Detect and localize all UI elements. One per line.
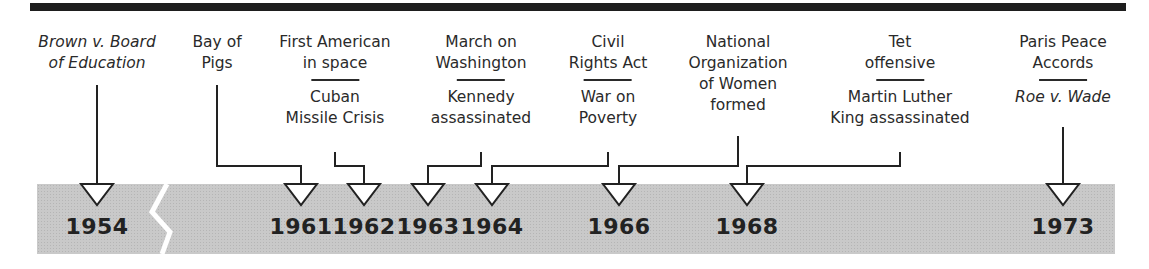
event-label-line: First American [279, 32, 390, 53]
event-bay-of-pigs: Bay of Pigs [192, 32, 241, 74]
event-label-line: Organization [688, 53, 787, 74]
marker-1954 [81, 184, 113, 205]
label-divider [584, 79, 632, 81]
label-divider [1039, 79, 1087, 81]
event-label-line: King assassinated [830, 108, 969, 129]
event-label-line: Civil [569, 32, 648, 53]
marker-1962 [348, 184, 380, 205]
marker-1968 [731, 184, 763, 205]
event-label-line: Tet [830, 32, 969, 53]
event-label-line: in space [279, 53, 390, 74]
event-label-line: Rights Act [569, 53, 648, 74]
year-1963: 1963 [396, 214, 459, 239]
event-label-line: March on [431, 32, 531, 53]
event-label-line: Kennedy [431, 87, 531, 108]
event-civil-rights-act: Civil Rights Act War on Poverty [569, 32, 648, 129]
event-label-line: Bay of [192, 32, 241, 53]
year-1966: 1966 [587, 214, 650, 239]
marker-1973 [1047, 184, 1079, 205]
event-label-line: Brown v. Board [38, 32, 156, 53]
event-brown-v-board: Brown v. Board of Education [38, 32, 156, 74]
event-label-line: Missile Crisis [279, 108, 390, 129]
event-march-on-washington: March on Washington Kennedy assassinated [431, 32, 531, 129]
year-1968: 1968 [715, 214, 778, 239]
year-1962: 1962 [332, 214, 395, 239]
axis-break-icon [152, 184, 170, 254]
event-label-line: formed [688, 95, 787, 116]
event-label-line: offensive [830, 53, 969, 74]
event-label-line: Washington [431, 53, 531, 74]
event-tet-offensive: Tet offensive Martin Luther King assassi… [830, 32, 969, 129]
marker-1966 [603, 184, 635, 205]
event-label-line: assassinated [431, 108, 531, 129]
event-label-line: of Women [688, 74, 787, 95]
year-1954: 1954 [65, 214, 128, 239]
event-label-line: War on [569, 87, 648, 108]
event-first-american-in-space: First American in space Cuban Missile Cr… [279, 32, 390, 129]
event-label-line: National [688, 32, 787, 53]
label-divider [457, 79, 505, 81]
event-label-line: Martin Luther [830, 87, 969, 108]
year-1973: 1973 [1031, 214, 1094, 239]
event-label-line: Cuban [279, 87, 390, 108]
event-now-formed: National Organization of Women formed [688, 32, 787, 116]
event-label-line: Pigs [192, 53, 241, 74]
event-label-line: of Education [38, 53, 156, 74]
marker-1964 [476, 184, 508, 205]
event-paris-peace-accords: Paris Peace Accords Roe v. Wade [1015, 32, 1111, 108]
event-label-line: Paris Peace [1015, 32, 1111, 53]
event-label-line: Roe v. Wade [1015, 87, 1111, 108]
label-divider [311, 79, 359, 81]
year-1964: 1964 [460, 214, 523, 239]
label-divider [876, 79, 924, 81]
event-label-line: Accords [1015, 53, 1111, 74]
year-1961: 1961 [269, 214, 332, 239]
event-label-line: Poverty [569, 108, 648, 129]
marker-1961 [285, 184, 317, 205]
marker-1963 [412, 184, 444, 205]
